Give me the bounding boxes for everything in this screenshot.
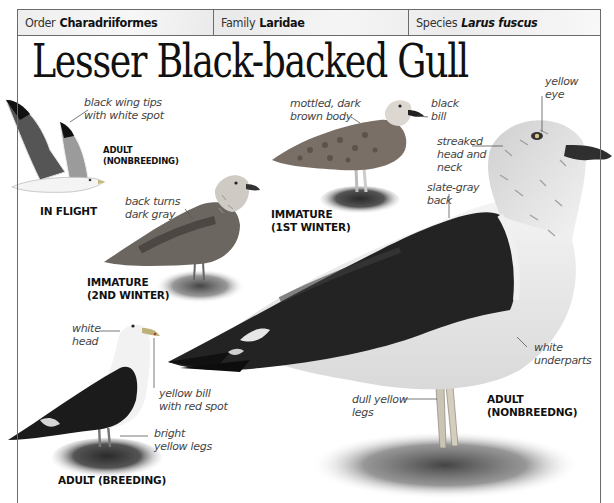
note-streaked-head-and-neck: streaked head and neck	[437, 135, 486, 174]
order-label: Order	[25, 15, 55, 30]
taxonomy-family: Family Laridae	[213, 10, 408, 35]
page-title: Lesser Black-backed Gull	[32, 38, 468, 84]
caption-immature-1st-winter: IMMATURE (1ST WINTER)	[271, 208, 351, 234]
caption-adult-nonbreeding-flight: ADULT (NONBREEDING)	[103, 145, 179, 167]
note-back-turns-dark-gray: back turns dark gray	[125, 195, 180, 221]
taxonomy-order: Order Charadriiformes	[18, 10, 213, 35]
note-yellow-eye: yellow eye	[545, 75, 578, 101]
caption-immature-2nd-winter: IMMATURE (2ND WINTER)	[87, 276, 169, 302]
family-value: Laridae	[259, 15, 304, 30]
frame-left-border	[17, 9, 18, 503]
caption-in-flight: IN FLIGHT	[40, 205, 97, 218]
taxonomy-bar: Order Charadriiformes Family Laridae Spe…	[17, 9, 601, 36]
family-label: Family	[221, 15, 255, 30]
field-guide-page: Order Charadriiformes Family Laridae Spe…	[0, 0, 614, 503]
caption-adult-nonbreeding: ADULT (NONBREEDNG)	[487, 393, 577, 419]
frame-right-border	[600, 9, 601, 503]
order-value: Charadriiformes	[59, 15, 157, 30]
note-black-bill: black bill	[431, 97, 459, 123]
note-yellow-bill-red-spot: yellow bill with red spot	[159, 387, 227, 413]
note-dull-yellow-legs: dull yellow legs	[352, 393, 407, 419]
taxonomy-species: Species Larus fuscus	[408, 10, 600, 35]
note-slate-gray-back: slate-gray back	[427, 181, 479, 207]
note-mottled-dark-brown-body: mottled, dark brown body	[290, 97, 361, 123]
species-label: Species	[416, 15, 457, 30]
note-bright-yellow-legs: bright yellow legs	[154, 427, 212, 453]
note-white-underparts: white underparts	[534, 341, 592, 367]
caption-adult-breeding: ADULT (BREEDING)	[58, 474, 166, 487]
note-white-head: white head	[72, 322, 101, 348]
species-value: Larus fuscus	[461, 15, 537, 30]
note-black-wing-tips: black wing tips with white spot	[84, 96, 164, 122]
